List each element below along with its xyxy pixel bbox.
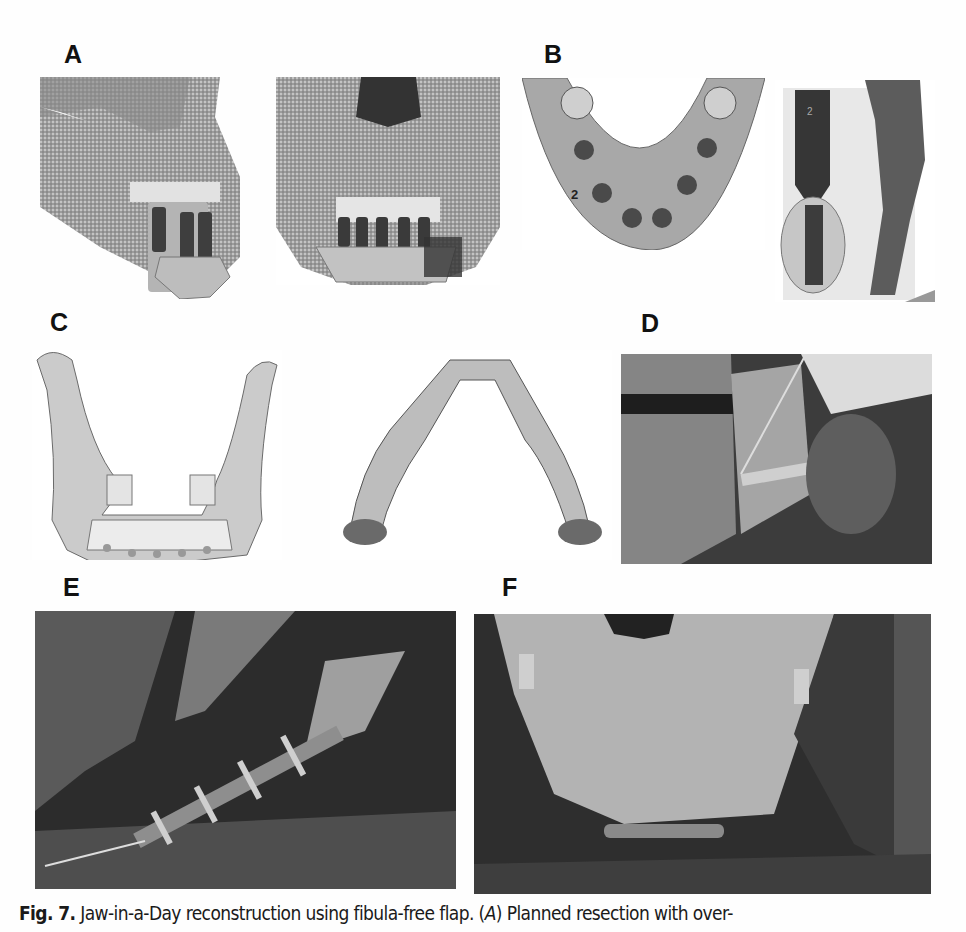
panel-a-frontal-image [276, 77, 500, 285]
panel-label-a: A [64, 42, 82, 67]
panel-f-intraop-image [474, 614, 931, 894]
figure-number: Fig. 7. [19, 902, 75, 924]
panel-c-mandible-image [32, 350, 282, 560]
panel-b-crosssection-image: 2 [775, 80, 935, 302]
caption-text: Jaw-in-a-Day reconstruction using fibula… [75, 902, 484, 924]
panel-e-intraop-image [35, 611, 456, 889]
panel-label-d: D [641, 311, 659, 336]
figure-caption: Fig. 7. Jaw-in-a-Day reconstruction usin… [19, 902, 733, 924]
panel-c-plate-image [330, 350, 612, 560]
caption-panel-ref: A [485, 902, 496, 924]
panel-a-lateral-image [40, 77, 245, 299]
implant-number-annotation-2: 2 [807, 106, 813, 117]
panel-label-b: B [544, 42, 562, 67]
panel-label-f: F [502, 575, 517, 600]
panel-b-occlusal-image: 2 [522, 78, 765, 250]
caption-text-continued: ) Planned resection with over- [496, 902, 733, 924]
panel-label-c: C [50, 310, 68, 335]
implant-number-annotation: 2 [571, 187, 578, 202]
panel-label-e: E [63, 575, 80, 600]
panel-d-intraop-image [621, 354, 932, 564]
